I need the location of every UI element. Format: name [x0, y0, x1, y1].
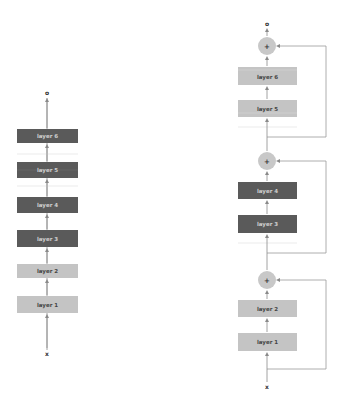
residual-input-label: x [265, 383, 269, 390]
plain-layer-4: layer 4 [17, 197, 78, 213]
svg-text:layer 4: layer 4 [257, 188, 278, 195]
residual-layer-3: layer 3 [238, 215, 297, 233]
plain-layer-6: layer 6 [17, 129, 78, 143]
plain-layer-3: layer 3 [17, 230, 78, 247]
plain-network: o layer 6 layer 5 layer 4 layer 3 [17, 89, 78, 357]
plain-layer-1: layer 1 [17, 296, 78, 313]
svg-text:layer 6: layer 6 [257, 74, 278, 81]
svg-text:layer 2: layer 2 [257, 306, 278, 313]
skip-connection-3 [267, 46, 326, 137]
residual-layer-5: layer 5 [238, 100, 297, 117]
residual-network: o + layer 6 layer 5 [238, 20, 326, 390]
svg-text:layer 5: layer 5 [37, 167, 58, 174]
plain-output-label: o [45, 89, 49, 96]
residual-layer-1: layer 1 [238, 333, 297, 351]
residual-layer-4: layer 4 [238, 182, 297, 199]
plus-icon: + [264, 158, 270, 166]
plain-input-label: x [45, 350, 49, 357]
plus-icon: + [264, 277, 270, 285]
skip-connection-2 [267, 161, 326, 253]
skip-connection-1 [267, 280, 326, 369]
svg-text:layer 1: layer 1 [37, 302, 58, 309]
residual-block-1: + layer 2 layer 1 [238, 271, 326, 369]
plain-layer-2: layer 2 [17, 264, 78, 278]
residual-layer-6: layer 6 [238, 67, 297, 85]
add-node: + [258, 271, 276, 289]
svg-text:layer 3: layer 3 [257, 221, 278, 228]
add-node: + [258, 152, 276, 170]
svg-text:layer 2: layer 2 [37, 268, 58, 275]
add-node: + [258, 37, 276, 55]
residual-layer-2: layer 2 [238, 300, 297, 317]
svg-text:layer 1: layer 1 [257, 339, 278, 346]
svg-text:layer 3: layer 3 [37, 236, 58, 243]
svg-text:layer 5: layer 5 [257, 106, 278, 113]
svg-text:layer 6: layer 6 [37, 133, 58, 140]
network-comparison-diagram: o layer 6 layer 5 layer 4 layer 3 [0, 0, 343, 407]
plus-icon: + [264, 43, 270, 51]
residual-block-3: + layer 6 layer 5 [238, 37, 326, 137]
svg-text:layer 4: layer 4 [37, 202, 58, 209]
residual-output-label: o [265, 20, 269, 27]
residual-block-2: + layer 4 layer 3 [238, 152, 326, 253]
plain-layer-5: layer 5 [17, 162, 78, 178]
